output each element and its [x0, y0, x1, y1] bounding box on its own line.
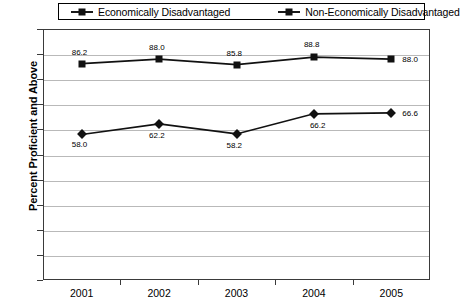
square-marker-icon [233, 61, 240, 68]
square-marker-icon [156, 56, 163, 63]
data-label: 85.8 [227, 50, 243, 58]
square-marker-icon [310, 54, 317, 61]
data-point [386, 54, 396, 64]
data-label: 88.8 [304, 41, 320, 49]
data-point [309, 52, 319, 62]
data-label: 86.2 [72, 49, 88, 57]
data-label: 62.2 [149, 132, 165, 140]
data-point [232, 60, 242, 70]
data-point [154, 119, 164, 129]
data-point [77, 59, 87, 69]
data-label: 66.2 [310, 122, 326, 130]
square-marker-icon [78, 60, 85, 67]
data-point [309, 109, 319, 119]
data-point [154, 54, 164, 64]
diamond-marker-icon [386, 108, 396, 118]
data-label: 66.6 [402, 110, 418, 118]
square-marker-icon [388, 56, 395, 63]
data-label: 88.0 [402, 56, 418, 64]
diamond-marker-icon [154, 119, 164, 129]
data-point [232, 129, 242, 139]
data-label: 58.2 [227, 142, 243, 150]
data-label: 88.0 [149, 44, 165, 52]
diamond-marker-icon [232, 129, 242, 139]
data-point [386, 108, 396, 118]
data-label: 58.0 [72, 141, 88, 149]
diamond-marker-icon [309, 109, 319, 119]
diamond-marker-icon [77, 129, 87, 139]
data-point [77, 129, 87, 139]
